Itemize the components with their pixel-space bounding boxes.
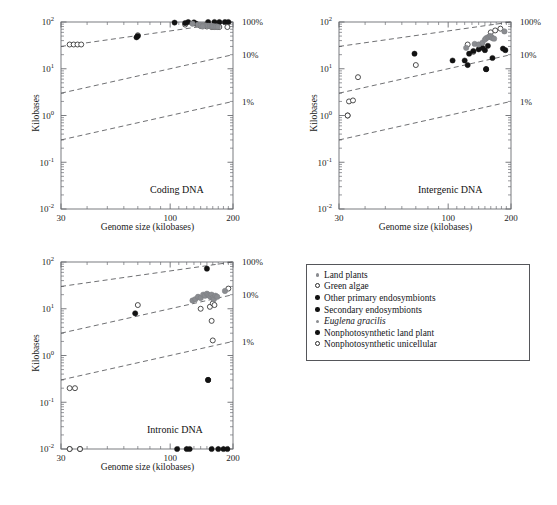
legend-marker-other-primary-endosymbionts [313,293,322,303]
svg-text:10%: 10% [242,50,259,60]
svg-text:100: 100 [163,213,177,223]
svg-text:200: 200 [226,453,240,463]
legend-box: Land plants Green algae Other primary en… [306,264,530,361]
legend-marker-nonphotosynthetic-land-plant [313,328,322,338]
svg-text:100: 100 [441,213,455,223]
svg-text:102: 102 [42,255,54,267]
figure-caption [28,496,548,505]
plot-coding-dna: 10-210-110010110230100200100%10%1% [0,0,280,240]
svg-text:30: 30 [335,213,345,223]
legend-item: Green algae [313,281,522,293]
legend-label: Nonphotosynthetic unicellular [324,339,437,349]
svg-text:1%: 1% [242,337,255,347]
svg-text:102: 102 [42,15,54,27]
svg-text:10-2: 10-2 [318,202,333,214]
panel-intergenic-dna: 10-210-110010110230100200100%10%1% Kilob… [278,0,557,240]
svg-text:1%: 1% [520,97,533,107]
x-axis-label-intergenic: Genome size (kilobases) [339,222,512,232]
plot-intergenic-dna: 10-210-110010110230100200100%10%1% [278,0,557,240]
svg-text:100: 100 [42,109,55,121]
plot-intronic-dna: 10-210-110010110230100200100%10%1% [0,240,280,480]
x-axis-label-intronic: Genome size (kilobases) [61,462,234,472]
legend-marker-nonphotosynthetic-unicellular [313,339,322,349]
legend-label: Green algae [324,281,369,291]
legend-marker-land-plants [313,270,322,280]
legend-item: Secondary endosymbionts [313,304,522,316]
legend-label: Nonphotosynthetic land plant [324,328,434,338]
svg-text:1%: 1% [242,97,255,107]
legend-marker-secondary-endosymbionts [313,305,322,315]
svg-text:100: 100 [42,349,55,361]
legend-label: Land plants [324,270,368,280]
svg-text:10%: 10% [242,290,259,300]
svg-text:100: 100 [320,109,333,121]
legend-marker-euglena-gracilis [313,316,322,326]
figure-container: 10-210-110010110230100200100%10%1% Kilob… [0,0,557,505]
svg-text:200: 200 [226,213,240,223]
legend-item: Other primary endosymbionts [313,292,522,304]
legend-label: Other primary endosymbionts [324,293,436,303]
svg-text:100: 100 [163,453,177,463]
svg-text:10-2: 10-2 [40,202,55,214]
svg-text:30: 30 [57,213,67,223]
svg-text:10-2: 10-2 [40,442,55,454]
legend-item: Nonphotosynthetic unicellular [313,339,522,351]
svg-text:10-1: 10-1 [40,156,55,168]
panel-title-intronic: Intronic DNA [147,424,203,435]
legend-label: Secondary endosymbionts [324,305,422,315]
legend-marker-green-algae [313,281,322,291]
svg-text:10-1: 10-1 [40,396,55,408]
y-axis-label-intergenic: Kilobases [309,73,319,153]
y-axis-label-intronic: Kilobases [31,313,41,393]
svg-text:30: 30 [57,453,67,463]
svg-text:100%: 100% [242,257,264,267]
svg-text:101: 101 [42,62,54,74]
svg-text:200: 200 [504,213,518,223]
svg-text:100%: 100% [520,17,542,27]
svg-text:101: 101 [320,62,332,74]
svg-text:10-1: 10-1 [318,156,333,168]
svg-text:101: 101 [42,302,54,314]
legend-item: Euglena gracilis [313,315,522,327]
legend-item: Land plants [313,269,522,281]
svg-text:102: 102 [320,15,332,27]
x-axis-label-coding: Genome size (kilobases) [61,222,234,232]
panel-title-intergenic: Intergenic DNA [418,184,483,195]
legend-item: Nonphotosynthetic land plant [313,327,522,339]
y-axis-label-coding: Kilobases [31,73,41,153]
legend-label: Euglena gracilis [324,316,386,326]
panel-title-coding: Coding DNA [150,184,204,195]
panel-coding-dna: 10-210-110010110230100200100%10%1% Kilob… [0,0,280,240]
panel-intronic-dna: 10-210-110010110230100200100%10%1% Kilob… [0,240,280,485]
svg-text:100%: 100% [242,17,264,27]
svg-text:10%: 10% [520,50,537,60]
